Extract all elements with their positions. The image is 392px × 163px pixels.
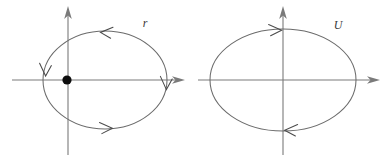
left-x-axis <box>12 76 185 84</box>
figure-canvas: r U <box>0 0 392 163</box>
focus-dot <box>62 75 71 84</box>
right-curve-label: U <box>334 18 344 32</box>
left-curve-label: r <box>143 16 148 30</box>
left-panel: r <box>12 6 185 155</box>
left-bottom-flow-arrow-icon <box>100 123 113 134</box>
left-top-flow-arrow-icon <box>101 27 114 38</box>
right-panel: U <box>198 6 380 155</box>
right-x-axis <box>198 76 380 84</box>
